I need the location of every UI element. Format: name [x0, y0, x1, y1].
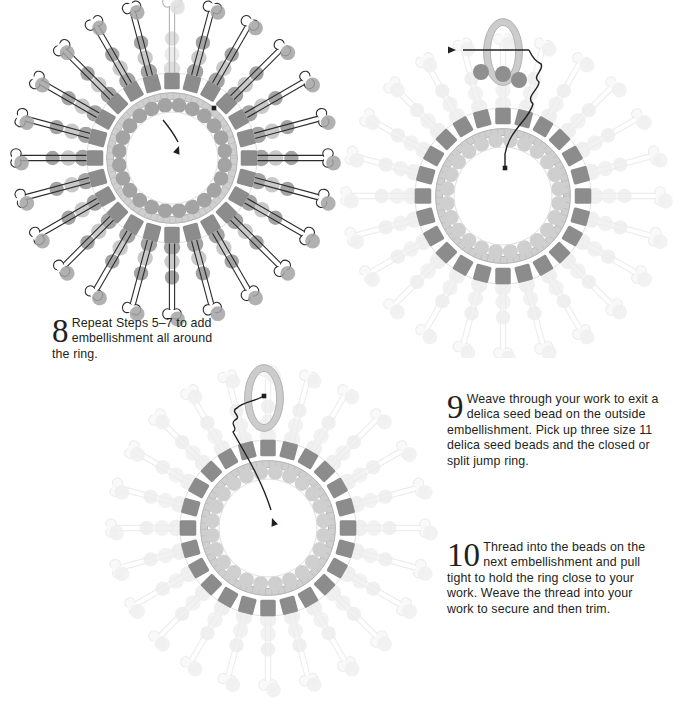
step-10-block: 10Thread into the beads on the next embe… [447, 540, 662, 617]
step-9-number: 9 [447, 394, 464, 421]
step-8-text-body: 8Repeat Steps 5–7 to add embellishment a… [52, 316, 232, 362]
diagram-2-ring-with-jump-ring-pickup [333, 8, 673, 358]
diagram-1-ring-with-full-embellishment [0, 0, 350, 330]
diagram-3-ring-with-jump-ring-attached [93, 358, 443, 712]
step-10-text-body: 10Thread into the beads on the next embe… [447, 540, 662, 617]
step-9-block: 9Weave through your work to exit a delic… [447, 392, 662, 469]
step-8-text: Repeat Steps 5–7 to add embellishment al… [52, 316, 212, 361]
step-10-number: 10 [447, 542, 480, 569]
step-9-text-body: 9Weave through your work to exit a delic… [447, 392, 662, 469]
step-8-block: 8Repeat Steps 5–7 to add embellishment a… [52, 316, 232, 362]
step-9-text: Weave through your work to exit a delica… [447, 392, 659, 468]
step-8-number: 8 [52, 318, 69, 345]
